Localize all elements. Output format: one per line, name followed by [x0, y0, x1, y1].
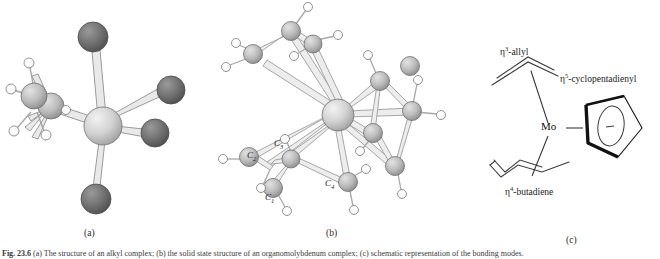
- panel-b-molecule-svg: [205, 0, 455, 225]
- figure-caption: Fig. 23.6 (a) The structure of an alkyl …: [2, 249, 658, 259]
- panel-b-molybdenum-centre: [322, 99, 354, 131]
- ligand-label-allyl: η3-allyl: [500, 45, 528, 57]
- panel-label-a: (a): [84, 228, 95, 238]
- panel-a-structure: [0, 0, 210, 225]
- atom-label-c3-index: 3: [280, 143, 283, 150]
- butadiene-name: -butadiene: [513, 187, 553, 197]
- panel-b-structure: [205, 0, 455, 225]
- atom-label-c1: C1: [265, 192, 274, 204]
- butadiene-ligand-drawing: [490, 160, 569, 177]
- panel-c-schematic-svg: [470, 0, 660, 225]
- panel-label-c: (c): [566, 235, 577, 245]
- panel-label-b: (b): [326, 228, 337, 238]
- ligand-label-cyclopentadienyl: η5-cyclopentadienyl: [560, 72, 636, 84]
- figure-caption-text: (a) The structure of an alkyl complex; (…: [33, 249, 523, 258]
- atom-label-c4-index: 4: [331, 183, 334, 190]
- panel-c-structure: [470, 0, 660, 225]
- cp-name: -cyclopentadienyl: [568, 74, 636, 84]
- atom-label-c1-index: 1: [271, 197, 274, 204]
- panel-a-carbon-beta: [21, 83, 47, 109]
- atom-label-c4: C4: [325, 178, 334, 190]
- allyl-name: -allyl: [508, 47, 528, 57]
- atom-label-c3: C3: [274, 138, 283, 150]
- allyl-ligand-drawing: [492, 57, 558, 123]
- figure-container: (a): [0, 0, 660, 259]
- metal-symbol-mo: Mo: [541, 120, 556, 132]
- ligand-label-butadiene: η4-butadiene: [505, 185, 553, 197]
- atom-label-c2-index: 2: [253, 155, 256, 162]
- atom-label-c2: C2: [247, 150, 256, 162]
- figure-caption-number: Fig. 23.6: [2, 249, 31, 258]
- cyclopentadienyl-ring-drawing: [586, 96, 642, 157]
- panel-a-metal-centre: [84, 107, 122, 145]
- panel-a-molecule-svg: [0, 0, 210, 225]
